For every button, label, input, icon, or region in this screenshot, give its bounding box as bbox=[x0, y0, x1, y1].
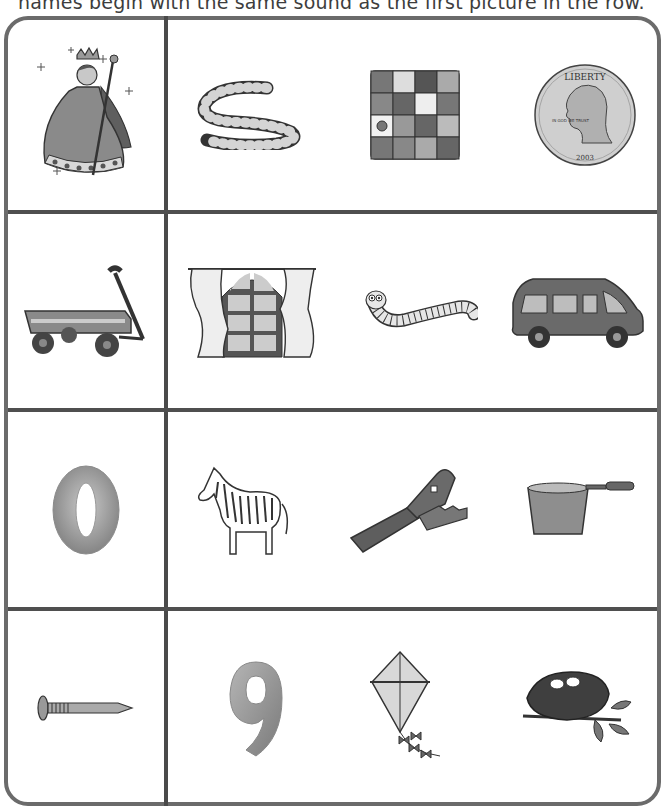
nest-icon bbox=[521, 668, 641, 748]
picture-rope[interactable] bbox=[172, 22, 332, 208]
picture-nine[interactable] bbox=[196, 615, 316, 800]
worm-icon bbox=[362, 286, 478, 336]
rope-icon bbox=[197, 80, 307, 150]
picture-window[interactable] bbox=[172, 218, 332, 404]
instruction-text: names begin with the same sound as the f… bbox=[18, 0, 645, 13]
quilt-icon bbox=[365, 65, 465, 165]
zebra-icon bbox=[190, 460, 310, 560]
wagon-icon bbox=[19, 261, 154, 361]
coin-year-text: 2003 bbox=[576, 154, 594, 162]
nine-icon bbox=[226, 658, 286, 758]
coin-liberty-text: LIBERTY bbox=[564, 72, 606, 82]
kite-icon bbox=[360, 648, 460, 768]
queen-icon bbox=[21, 35, 151, 195]
van-icon bbox=[507, 271, 647, 351]
picture-zipper[interactable] bbox=[340, 416, 490, 604]
picture-nail bbox=[10, 615, 162, 800]
picture-worm[interactable] bbox=[350, 218, 490, 404]
picture-kite[interactable] bbox=[350, 615, 470, 800]
picture-wagon bbox=[10, 218, 162, 404]
zipper-icon bbox=[345, 460, 485, 560]
nail-icon bbox=[36, 693, 136, 723]
picture-zero bbox=[10, 416, 162, 604]
picture-pan[interactable] bbox=[512, 416, 652, 604]
picture-quarter[interactable]: LIBERTY IN GOD WE TRUST 2003 bbox=[520, 22, 650, 208]
picture-queen bbox=[10, 22, 162, 208]
picture-zebra[interactable] bbox=[180, 416, 320, 604]
row-divider-2 bbox=[8, 408, 657, 412]
pan-icon bbox=[524, 480, 640, 540]
zero-icon bbox=[46, 460, 126, 560]
picture-nest[interactable] bbox=[510, 615, 652, 800]
window-icon bbox=[184, 261, 320, 361]
picture-quilt[interactable] bbox=[350, 22, 480, 208]
coin-motto-text: IN GOD WE TRUST bbox=[552, 118, 589, 123]
picture-van[interactable] bbox=[502, 218, 652, 404]
row-divider-1 bbox=[8, 210, 657, 214]
row-divider-3 bbox=[8, 607, 657, 611]
quarter-icon: LIBERTY IN GOD WE TRUST 2003 bbox=[530, 60, 640, 170]
